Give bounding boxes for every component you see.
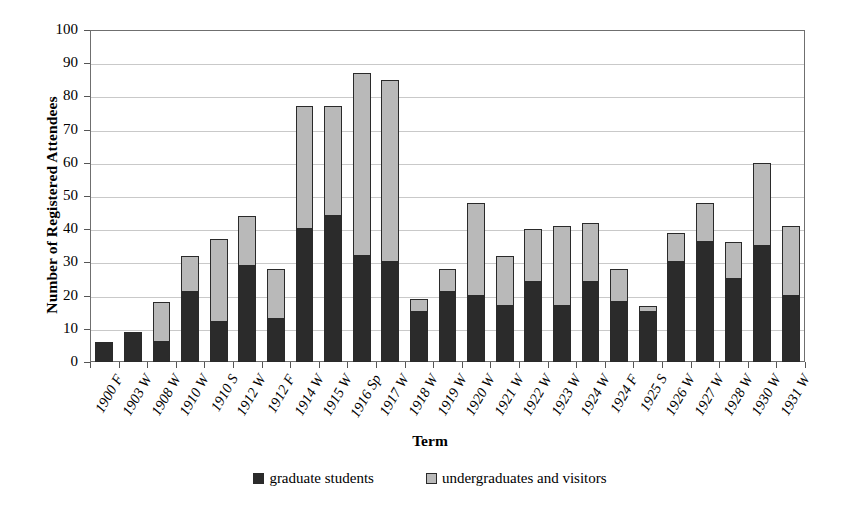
bar-group [381, 30, 399, 362]
x-tick-mark [119, 362, 120, 368]
bar-segment-undergraduates-and-visitors [296, 106, 314, 229]
bar-group [467, 30, 485, 362]
bar-group [667, 30, 685, 362]
bar-segment-undergraduates-and-visitors [353, 73, 371, 256]
legend-label: graduate students [269, 470, 374, 487]
bar-segment-graduate-students [467, 296, 485, 362]
bar-segment-graduate-students [524, 282, 542, 362]
x-tick-mark [204, 362, 205, 368]
bar-segment-undergraduates-and-visitors [381, 80, 399, 263]
bar-segment-graduate-students [353, 256, 371, 362]
x-tick-mark [776, 362, 777, 368]
bar-segment-graduate-students [667, 262, 685, 362]
x-axis-title: Term [0, 432, 860, 450]
bar-group [553, 30, 571, 362]
bars-container [90, 30, 805, 362]
bar-segment-graduate-students [582, 282, 600, 362]
x-tick-mark [605, 362, 606, 368]
bar-segment-undergraduates-and-visitors [553, 226, 571, 306]
legend-label: undergraduates and visitors [442, 470, 607, 487]
x-tick-mark [548, 362, 549, 368]
dark-swatch-icon [253, 473, 264, 484]
chart-legend: graduate students undergraduates and vis… [0, 470, 860, 487]
bar-segment-graduate-students [496, 306, 514, 362]
bar-group [439, 30, 457, 362]
y-tick-label: 10 [34, 321, 78, 336]
bar-segment-undergraduates-and-visitors [524, 229, 542, 282]
bar-segment-undergraduates-and-visitors [639, 306, 657, 313]
y-tick-label: 20 [34, 288, 78, 303]
y-tick-label: 30 [34, 254, 78, 269]
y-tick-label: 90 [34, 55, 78, 70]
bar-segment-undergraduates-and-visitors [582, 223, 600, 283]
bar-group [153, 30, 171, 362]
bar-segment-graduate-students [153, 342, 171, 362]
bar-group [210, 30, 228, 362]
x-tick-mark [319, 362, 320, 368]
bar-segment-graduate-students [410, 312, 428, 362]
bar-group [124, 30, 142, 362]
x-tick-mark [405, 362, 406, 368]
x-tick-mark [462, 362, 463, 368]
bar-segment-graduate-students [267, 319, 285, 362]
bar-segment-graduate-students [210, 322, 228, 362]
bar-group [410, 30, 428, 362]
bar-segment-undergraduates-and-visitors [153, 302, 171, 342]
y-tick-label: 60 [34, 155, 78, 170]
bar-segment-graduate-students [553, 306, 571, 362]
bar-segment-undergraduates-and-visitors [210, 239, 228, 322]
bar-group [610, 30, 628, 362]
bar-segment-undergraduates-and-visitors [267, 269, 285, 319]
bar-segment-graduate-students [782, 296, 800, 362]
x-tick-mark [662, 362, 663, 368]
bar-segment-graduate-students [610, 302, 628, 362]
x-tick-mark [262, 362, 263, 368]
y-tick-label: 100 [34, 22, 78, 37]
bar-chart-figure: Number of Registered Attendees 010203040… [0, 0, 860, 519]
bar-segment-graduate-students [725, 279, 743, 362]
x-tick-mark [576, 362, 577, 368]
bar-segment-undergraduates-and-visitors [410, 299, 428, 312]
bar-segment-graduate-students [181, 292, 199, 362]
legend-item-graduate-students: graduate students [253, 470, 374, 487]
bar-segment-graduate-students [439, 292, 457, 362]
legend-item-undergraduates-and-visitors: undergraduates and visitors [426, 470, 607, 487]
bar-segment-undergraduates-and-visitors [496, 256, 514, 306]
x-tick-mark [805, 362, 806, 368]
x-tick-mark [233, 362, 234, 368]
x-tick-mark [490, 362, 491, 368]
bar-group [353, 30, 371, 362]
x-tick-mark [719, 362, 720, 368]
bar-group [582, 30, 600, 362]
bar-segment-graduate-students [238, 266, 256, 362]
bar-segment-undergraduates-and-visitors [696, 203, 714, 243]
bar-group [524, 30, 542, 362]
bar-segment-undergraduates-and-visitors [439, 269, 457, 292]
bar-group [496, 30, 514, 362]
bar-segment-undergraduates-and-visitors [238, 216, 256, 266]
x-tick-mark [433, 362, 434, 368]
bar-group [639, 30, 657, 362]
bar-segment-graduate-students [324, 216, 342, 362]
bar-segment-graduate-students [124, 332, 142, 362]
x-tick-mark [633, 362, 634, 368]
y-tick-label: 0 [34, 354, 78, 369]
light-swatch-icon [426, 473, 437, 484]
bar-segment-undergraduates-and-visitors [725, 242, 743, 279]
bar-segment-undergraduates-and-visitors [667, 233, 685, 263]
bar-group [725, 30, 743, 362]
x-tick-mark [290, 362, 291, 368]
bar-segment-graduate-students [296, 229, 314, 362]
x-tick-mark [147, 362, 148, 368]
bar-group [696, 30, 714, 362]
x-tick-mark [176, 362, 177, 368]
x-tick-mark [691, 362, 692, 368]
x-tick-mark [519, 362, 520, 368]
bar-segment-undergraduates-and-visitors [610, 269, 628, 302]
bar-segment-graduate-students [381, 262, 399, 362]
bar-segment-undergraduates-and-visitors [753, 163, 771, 246]
bar-group [296, 30, 314, 362]
x-tick-mark [90, 362, 91, 368]
y-tick-label: 70 [34, 122, 78, 137]
bar-segment-undergraduates-and-visitors [324, 106, 342, 216]
